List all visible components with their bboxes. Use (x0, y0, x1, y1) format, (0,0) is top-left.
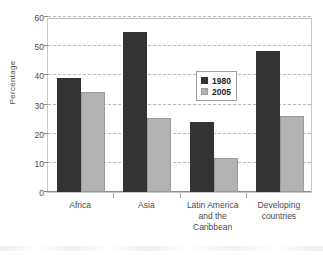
legend-label-2005: 2005 (212, 87, 231, 97)
category-separator-0 (113, 193, 114, 198)
series-1980-swatch (201, 77, 208, 84)
x-tick-label-line: Caribbean (180, 222, 246, 233)
x-tick-label-latin-america-and-the-caribbean: Latin Americaand theCaribbean (180, 200, 246, 233)
x-tick-label-line: and the (180, 211, 246, 222)
bar-1980-developing-countries (256, 51, 280, 192)
bar-1980-asia (123, 32, 147, 192)
category-separator-1 (180, 193, 181, 198)
y-axis-title: Percentage (8, 43, 17, 123)
y-tick-label-40: 40 (14, 71, 44, 81)
legend-item-1980[interactable]: 1980 (201, 75, 231, 86)
x-tick-label-africa: Africa (47, 200, 113, 211)
y-tick-label-30: 30 (14, 101, 44, 111)
bar-2005-developing-countries (280, 116, 304, 192)
scan-artifact-strip (0, 246, 323, 251)
plot-area (47, 18, 312, 193)
series-2005-swatch (201, 88, 208, 95)
bar-chart: Percentage 0102030405060 AfricaAsiaLatin… (0, 0, 323, 255)
gridline-60 (48, 16, 311, 17)
x-tick-label-line: Latin America (180, 200, 246, 211)
x-tick-label-asia: Asia (113, 200, 179, 211)
x-tick-label-developing-countries: Developingcountries (246, 200, 312, 222)
bar-2005-asia (147, 118, 171, 192)
bars-layer (48, 19, 311, 192)
x-tick-label-line: Developing (246, 200, 312, 211)
x-tick-label-line: Asia (113, 200, 179, 211)
category-separator-2 (246, 193, 247, 198)
y-tick-label-10: 10 (14, 159, 44, 169)
y-tick-label-0: 0 (14, 188, 44, 198)
legend[interactable]: 1980 2005 (196, 71, 237, 101)
bar-1980-africa (57, 78, 81, 192)
bar-2005-latin-america-and-the-caribbean (214, 158, 238, 192)
bar-1980-latin-america-and-the-caribbean (190, 122, 214, 192)
y-tick-label-60: 60 (14, 13, 44, 23)
x-tick-label-line: countries (246, 211, 312, 222)
legend-label-1980: 1980 (212, 76, 231, 86)
y-tick-mark-60 (44, 16, 48, 17)
legend-item-2005[interactable]: 2005 (201, 86, 231, 97)
y-tick-label-50: 50 (14, 42, 44, 52)
x-tick-label-line: Africa (47, 200, 113, 211)
bar-2005-africa (81, 92, 105, 192)
y-tick-label-20: 20 (14, 130, 44, 140)
